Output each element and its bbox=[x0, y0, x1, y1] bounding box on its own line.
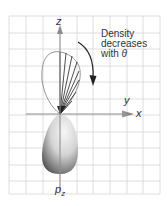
annotation-line-3: with θ bbox=[101, 49, 147, 59]
theta-symbol: θ bbox=[122, 48, 127, 59]
x-axis-label: x bbox=[136, 107, 142, 119]
orbital-label: pz bbox=[55, 183, 65, 198]
orbital-label-subscript: z bbox=[61, 189, 65, 198]
density-annotation: Density decreases with θ bbox=[101, 29, 147, 59]
x-axis bbox=[26, 111, 134, 118]
pz-orbital-diagram: z y x Density decreases with θ pz bbox=[0, 0, 167, 206]
y-axis-label: y bbox=[124, 94, 130, 106]
annotation-line-3-text: with bbox=[101, 48, 122, 59]
z-axis-label: z bbox=[56, 15, 62, 27]
